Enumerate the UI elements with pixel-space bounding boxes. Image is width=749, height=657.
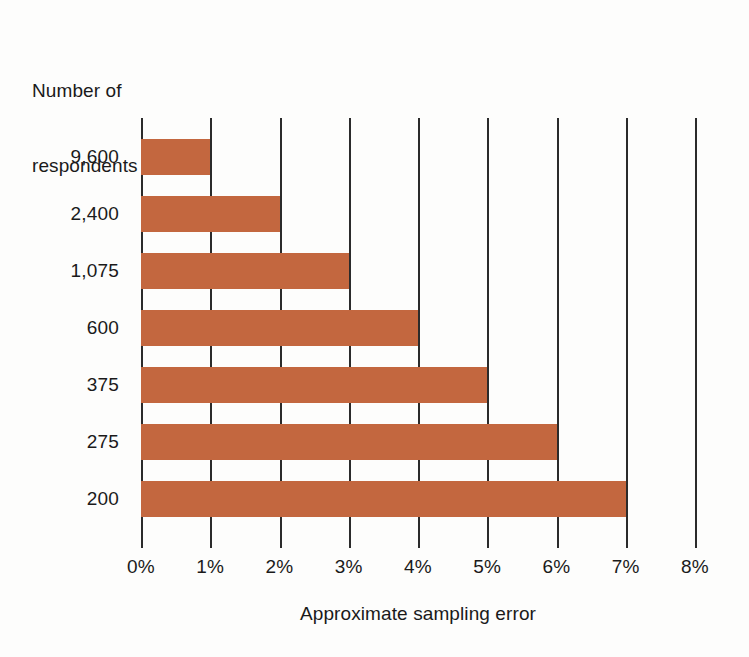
y-tick-label-text: 9,600 (0, 139, 131, 175)
bar-row (141, 403, 695, 460)
bars-layer (141, 118, 695, 533)
y-axis-title-line-1: Number of (32, 78, 138, 103)
bar-2400 (141, 196, 280, 232)
bar-275 (141, 424, 557, 460)
bar-chart: Number of respondents 9,6002,4001,075600… (0, 0, 749, 657)
y-tick-label-text: 1,075 (0, 253, 131, 289)
bar-9600 (141, 139, 210, 175)
y-tick-label-text: 2,400 (0, 196, 131, 232)
y-tick-label-text: 200 (0, 481, 131, 517)
bar-600 (141, 310, 418, 346)
y-tick-label: 200 (0, 460, 131, 538)
y-tick-label-text: 275 (0, 424, 131, 460)
bar-row (141, 289, 695, 346)
x-tick-label-1%: 1% (180, 556, 240, 578)
y-tick-label-text: 375 (0, 367, 131, 403)
x-axis-tick-labels: 0%1%2%3%4%5%6%7%8% (0, 556, 749, 584)
x-tick-label-2%: 2% (250, 556, 310, 578)
bar-200 (141, 481, 626, 517)
gridline-8% (695, 118, 697, 548)
x-tick-label-6%: 6% (527, 556, 587, 578)
bar-row (141, 460, 695, 517)
x-tick-label-7%: 7% (596, 556, 656, 578)
bar-1075 (141, 253, 349, 289)
x-tick-label-5%: 5% (457, 556, 517, 578)
bar-row (141, 232, 695, 289)
x-tick-label-8%: 8% (665, 556, 725, 578)
bar-row (141, 175, 695, 232)
y-tick-label-text: 600 (0, 310, 131, 346)
x-axis-title: Approximate sampling error (141, 603, 695, 625)
y-axis-tick-labels: 9,6002,4001,075600375275200 (0, 118, 131, 533)
bar-row (141, 118, 695, 175)
x-tick-label-3%: 3% (319, 556, 379, 578)
x-tick-label-4%: 4% (388, 556, 448, 578)
x-tick-label-0%: 0% (111, 556, 171, 578)
bar-row (141, 346, 695, 403)
bar-375 (141, 367, 487, 403)
